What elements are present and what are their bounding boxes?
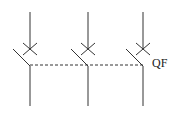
circuit-breaker-diagram (0, 0, 175, 113)
breaker-label: QF (152, 56, 167, 71)
pole-1 (13, 12, 37, 106)
pole-3 (126, 12, 150, 106)
pole-2 (71, 12, 95, 106)
